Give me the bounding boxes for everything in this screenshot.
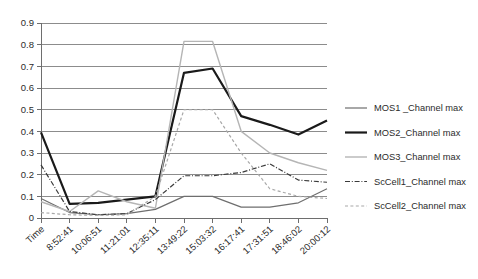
x-tick-label: 15:03:32 — [183, 223, 218, 256]
x-tick-label: 18:46:02 — [269, 223, 304, 256]
series-line-5 — [41, 110, 327, 216]
legend-label-2: MOS2_Channel max — [374, 128, 461, 138]
y-tick-label: 0.5 — [21, 104, 34, 115]
chart-canvas: 00.10.20.30.40.50.60.70.80.9Time8:52:411… — [0, 0, 478, 279]
y-tick-label: 0.7 — [21, 61, 34, 72]
x-tick-label: 12:35:11 — [126, 223, 160, 255]
x-tick-label: 16:17:41 — [212, 223, 247, 256]
line-chart: 00.10.20.30.40.50.60.70.80.9Time8:52:411… — [0, 0, 478, 279]
x-tick-label: 13:49:22 — [154, 223, 189, 256]
legend-label-4: ScCell1_Channel max — [374, 177, 466, 187]
x-tick-label: 17:31:51 — [240, 223, 275, 256]
x-tick-label: 10:06:51 — [69, 223, 104, 256]
legend-label-1: MOS1 _Channel max — [374, 103, 463, 113]
y-tick-label: 0.1 — [21, 191, 34, 202]
x-tick-label: 11:21:01 — [98, 223, 132, 255]
legend-label-5: ScCell2_Channel max — [374, 201, 466, 211]
series-group — [41, 41, 327, 215]
x-tick-label: Time — [24, 223, 47, 245]
series-line-4 — [41, 164, 327, 215]
y-tick-label: 0.6 — [21, 82, 34, 93]
y-tick-label: 0.8 — [21, 39, 34, 50]
x-axis-ticks: Time8:52:4110:06:5111:21:0112:35:1113:49… — [24, 218, 333, 256]
legend: MOS1 _Channel maxMOS2_Channel maxMOS3_Ch… — [345, 103, 466, 211]
y-tick-label: 0.2 — [21, 169, 34, 180]
y-tick-label: 0.4 — [21, 126, 34, 137]
y-tick-label: 0 — [29, 212, 34, 223]
y-tick-label: 0.3 — [21, 147, 34, 158]
series-line-3 — [41, 41, 327, 211]
legend-label-3: MOS3_Channel max — [374, 152, 461, 162]
x-tick-label: 20:00:12 — [297, 223, 332, 256]
series-line-2 — [41, 69, 327, 204]
y-tick-label: 0.9 — [21, 17, 34, 28]
